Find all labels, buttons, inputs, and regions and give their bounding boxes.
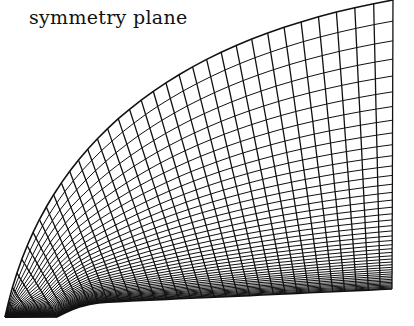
grid-lines [5, 0, 393, 317]
computational-grid [0, 0, 414, 326]
